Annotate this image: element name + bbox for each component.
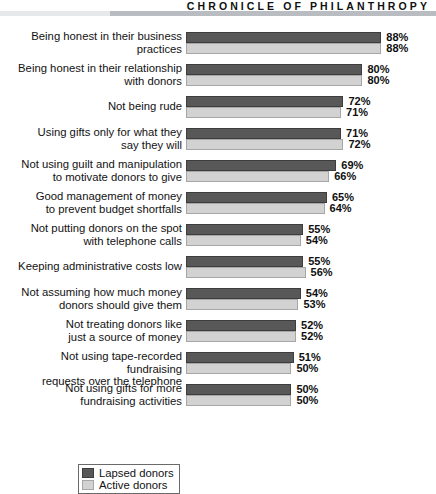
- chart-group: Not using tape-recorded fundraisingreque…: [0, 352, 436, 374]
- bar-lapsed: [186, 224, 303, 235]
- category-label-line: Not being rude: [4, 100, 182, 112]
- category-label: Keeping administrative costs low: [4, 260, 182, 272]
- bar-lapsed: [186, 192, 327, 203]
- chart-group: Being honest in their relationshipwith d…: [0, 64, 436, 86]
- category-label: Not treating donors likejust a source of…: [4, 318, 182, 343]
- chart-legend: Lapsed donors Active donors: [78, 464, 180, 494]
- category-label-line: Good management of money: [4, 190, 182, 202]
- bar-active: [186, 75, 362, 86]
- bar-value-label: 52%: [301, 330, 323, 342]
- category-label-line: just a source of money: [4, 331, 182, 343]
- category-label: Using gifts only for what theysay they w…: [4, 126, 182, 151]
- bar-active: [186, 363, 291, 374]
- bar-value-label: 64%: [330, 202, 352, 214]
- bar-value-label: 80%: [367, 74, 389, 86]
- category-label-line: to motivate donors to give: [4, 171, 182, 183]
- category-label: Being honest in their relationshipwith d…: [4, 62, 182, 87]
- bar-active: [186, 267, 306, 278]
- chart-group: Being honest in their businesspractices8…: [0, 32, 436, 54]
- masthead: CHRONICLE OF PHILANTHROPY: [0, 0, 436, 22]
- category-label-line: Not using guilt and manipulation: [4, 158, 182, 170]
- category-label-line: Keeping administrative costs low: [4, 260, 182, 272]
- legend-swatch-active-icon: [82, 480, 94, 490]
- bar-lapsed: [186, 320, 296, 331]
- category-label: Not assuming how much moneydonors should…: [4, 286, 182, 311]
- bar-value-label: 72%: [348, 138, 370, 150]
- category-label-line: practices: [4, 43, 182, 55]
- bar-active: [186, 235, 301, 246]
- bar-lapsed: [186, 32, 381, 43]
- bar-chart-plot: Being honest in their businesspractices8…: [0, 28, 436, 458]
- category-label: Not using guilt and manipulationto motiv…: [4, 158, 182, 183]
- bar-active: [186, 203, 325, 214]
- publication-title: CHRONICLE OF PHILANTHROPY: [187, 0, 430, 12]
- bar-lapsed: [186, 288, 301, 299]
- bar-value-label: 56%: [311, 266, 333, 278]
- category-label-line: Not using tape-recorded fundraising: [4, 350, 182, 375]
- chart-group: Using gifts only for what theysay they w…: [0, 128, 436, 150]
- category-label: Not being rude: [4, 100, 182, 112]
- category-label-line: say they will: [4, 139, 182, 151]
- bar-value-label: 88%: [386, 42, 408, 54]
- bar-lapsed: [186, 160, 336, 171]
- masthead-rule-notch: [0, 11, 110, 16]
- bar-active: [186, 171, 329, 182]
- category-label-line: Not treating donors like: [4, 318, 182, 330]
- legend-label-active: Active donors: [99, 479, 167, 491]
- bar-value-label: 50%: [296, 394, 318, 406]
- category-label-line: to prevent budget shortfalls: [4, 203, 182, 215]
- category-label-line: Not assuming how much money: [4, 286, 182, 298]
- chart-group: Not assuming how much moneydonors should…: [0, 288, 436, 310]
- bar-lapsed: [186, 128, 341, 139]
- bar-active: [186, 331, 296, 342]
- chart-group: Keeping administrative costs low55%56%: [0, 256, 436, 278]
- bar-value-label: 54%: [306, 234, 328, 246]
- bar-active: [186, 43, 381, 54]
- chart-group: Not putting donors on the spotwith telep…: [0, 224, 436, 246]
- category-label-line: donors should give them: [4, 299, 182, 311]
- category-label-line: with donors: [4, 75, 182, 87]
- bar-value-label: 53%: [303, 298, 325, 310]
- category-label: Not using gifts for morefundraising acti…: [4, 382, 182, 407]
- category-label: Not putting donors on the spotwith telep…: [4, 222, 182, 247]
- category-label: Being honest in their businesspractices: [4, 30, 182, 55]
- chart-group: Not treating donors likejust a source of…: [0, 320, 436, 342]
- bar-value-label: 71%: [346, 106, 368, 118]
- bar-active: [186, 139, 343, 150]
- category-label-line: Not using gifts for more: [4, 382, 182, 394]
- category-label-line: Not putting donors on the spot: [4, 222, 182, 234]
- chart-group: Good management of moneyto prevent budge…: [0, 192, 436, 214]
- legend-label-lapsed: Lapsed donors: [99, 467, 174, 479]
- bar-lapsed: [186, 64, 362, 75]
- legend-swatch-lapsed-icon: [82, 468, 94, 478]
- category-label-line: Being honest in their relationship: [4, 62, 182, 74]
- bar-value-label: 50%: [296, 362, 318, 374]
- legend-item-active-donors: Active donors: [82, 479, 174, 491]
- bar-value-label: 66%: [334, 170, 356, 182]
- chart-group: Not using gifts for morefundraising acti…: [0, 384, 436, 406]
- bar-lapsed: [186, 256, 303, 267]
- bar-active: [186, 107, 341, 118]
- bar-lapsed: [186, 384, 291, 395]
- legend-item-lapsed-donors: Lapsed donors: [82, 467, 174, 479]
- chart-group: Not being rude72%71%: [0, 96, 436, 118]
- bar-lapsed: [186, 352, 294, 363]
- bar-active: [186, 395, 291, 406]
- category-label: Good management of moneyto prevent budge…: [4, 190, 182, 215]
- category-label-line: Using gifts only for what they: [4, 126, 182, 138]
- category-label-line: Being honest in their business: [4, 30, 182, 42]
- chart-group: Not using guilt and manipulationto motiv…: [0, 160, 436, 182]
- category-label-line: with telephone calls: [4, 235, 182, 247]
- bar-active: [186, 299, 298, 310]
- category-label-line: fundraising activities: [4, 395, 182, 407]
- bar-lapsed: [186, 96, 343, 107]
